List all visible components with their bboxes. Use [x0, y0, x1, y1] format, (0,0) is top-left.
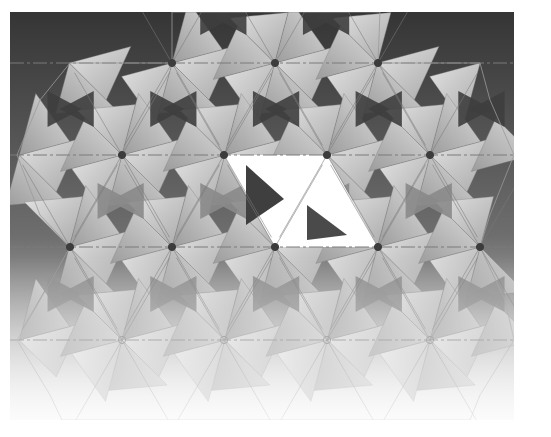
bottom-fade [10, 12, 514, 420]
tessellation-figure [0, 0, 551, 437]
diagram-canvas [0, 0, 551, 437]
